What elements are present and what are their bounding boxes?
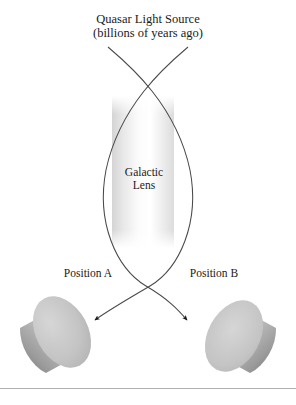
galactic-lens-label-line2: Lens bbox=[0, 179, 288, 192]
quasar-source-subtitle: (billions of years ago) bbox=[0, 26, 296, 40]
galactic-lens-label-line1: Galactic bbox=[125, 166, 163, 178]
diagram-canvas bbox=[0, 0, 296, 405]
lensing-diagram-figure: Quasar Light Source (billions of years a… bbox=[0, 0, 296, 405]
quasar-source-caption: Quasar Light Source (billions of years a… bbox=[0, 12, 296, 41]
position-a-label: Position A bbox=[36, 267, 140, 280]
galactic-lens-label: Galactic Lens bbox=[0, 166, 288, 192]
observer-cylinder-position-a bbox=[20, 286, 103, 378]
position-b-label: Position B bbox=[162, 267, 266, 280]
quasar-source-title: Quasar Light Source bbox=[96, 12, 199, 26]
observer-cylinder-position-b bbox=[193, 290, 276, 382]
